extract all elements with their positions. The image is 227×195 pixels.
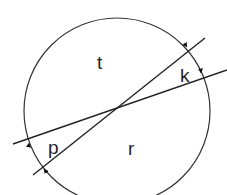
label-p: p <box>48 137 59 158</box>
arc-arrow-p <box>28 143 29 155</box>
label-k: k <box>180 65 190 86</box>
secant-line-1 <box>33 38 205 175</box>
circle <box>24 18 210 195</box>
label-t: t <box>97 52 103 73</box>
secant-line-2 <box>13 70 227 144</box>
arc-arrow-t <box>168 30 187 47</box>
diagram-canvas: t k p r <box>0 0 227 195</box>
label-r: r <box>128 138 135 159</box>
